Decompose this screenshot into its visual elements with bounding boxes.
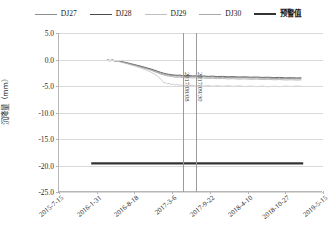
gridline-y: [59, 60, 323, 61]
y-axis-tick-label: -5.0: [42, 82, 54, 91]
legend-label-DJ30: DJ30: [225, 10, 241, 18]
legend-swatch-DJ28: [90, 14, 112, 15]
legend-item-预警值[interactable]: 预警值: [254, 10, 301, 18]
y-axis-tick: [56, 113, 59, 114]
y-axis-tick-label: -10.0: [38, 108, 54, 117]
y-axis-tick: [56, 33, 59, 34]
x-axis-tick-label: 2016-8-18: [108, 194, 141, 223]
x-axis-tick-label: 2018-4-10: [221, 194, 254, 223]
legend-label-DJ27: DJ27: [61, 10, 77, 18]
legend-swatch-预警值: [254, 13, 276, 15]
y-axis-tick-label: -20.0: [38, 161, 54, 170]
legend-label-DJ28: DJ28: [116, 10, 132, 18]
gridline-y: [59, 166, 323, 167]
x-axis-tick-label: 2016-1-31: [70, 194, 103, 223]
plot-area: 2017/08/082017/09/30: [58, 33, 322, 192]
y-axis-tick-label: -15.0: [38, 135, 54, 144]
gridline-y: [59, 113, 323, 114]
y-axis-tick-labels: 5.00.0-5.0-10.0-15.0-20.0-25.0: [0, 33, 58, 192]
y-axis-tick-label: 5.0: [45, 29, 54, 38]
annotation-vline-2017/08/08: [183, 33, 184, 192]
settlement-line-chart: DJ27DJ28DJ29DJ30预警值 沉降量（mm） 5.00.0-5.0-1…: [0, 0, 336, 235]
gridline-y: [59, 33, 323, 34]
chart-legend: DJ27DJ28DJ29DJ30预警值: [0, 6, 336, 22]
legend-item-DJ29[interactable]: DJ29: [145, 10, 187, 18]
y-axis-tick: [56, 166, 59, 167]
x-axis-tick-label: 2015-7-15: [32, 194, 65, 223]
x-axis-tick-label: 2019-5-15: [296, 194, 329, 223]
y-axis-tick: [56, 86, 59, 87]
y-axis-tick-label: -25.0: [38, 188, 54, 197]
legend-label-DJ29: DJ29: [171, 10, 187, 18]
legend-swatch-DJ27: [35, 14, 57, 15]
annotation-vline-label: 2017/08/08: [184, 72, 191, 102]
legend-item-DJ28[interactable]: DJ28: [90, 10, 132, 18]
x-axis-tick-labels: 2015-7-152016-1-312016-8-182017-3-62017-…: [58, 193, 322, 235]
x-axis-tick-label: 2018-10-27: [259, 194, 292, 223]
legend-label-预警值: 预警值: [280, 10, 301, 18]
legend-swatch-DJ29: [145, 14, 167, 15]
annotation-vline-label: 2017/09/30: [197, 72, 204, 102]
legend-swatch-DJ30: [199, 14, 221, 15]
y-axis-tick: [56, 60, 59, 61]
gridline-y: [59, 139, 323, 140]
x-axis-tick-label: 2017-9-22: [183, 194, 216, 223]
annotation-vline-2017/09/30: [196, 33, 197, 192]
x-axis-tick-label: 2017-3-6: [146, 194, 179, 223]
legend-item-DJ30[interactable]: DJ30: [199, 10, 241, 18]
y-axis-tick: [56, 139, 59, 140]
y-axis-tick-label: 0.0: [45, 55, 54, 64]
legend-item-DJ27[interactable]: DJ27: [35, 10, 77, 18]
